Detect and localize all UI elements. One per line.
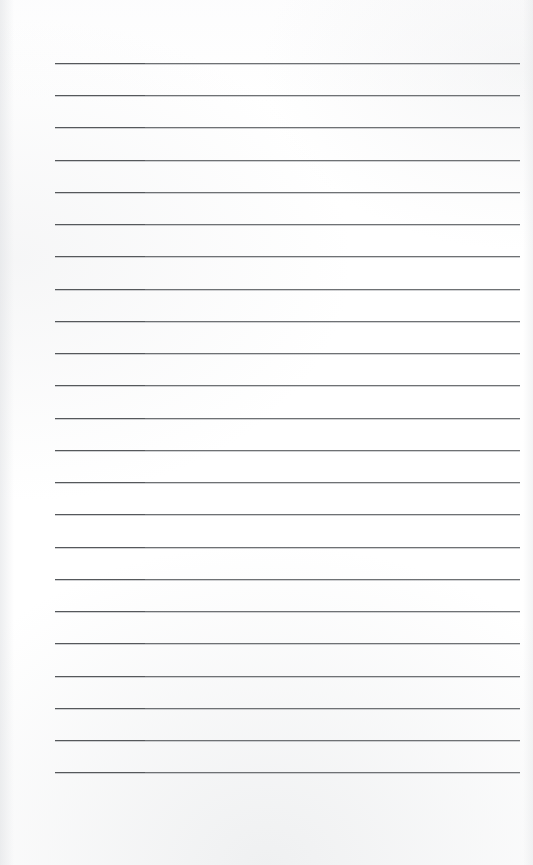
rule-line <box>55 127 520 128</box>
rule-line-shadow <box>55 128 520 129</box>
rule-line-shadow <box>55 290 520 291</box>
rule-line-shadow <box>55 225 520 226</box>
rule-line-left-segment <box>55 547 145 548</box>
rule-line-left-segment <box>55 450 145 451</box>
rule-line-left-segment <box>55 482 145 483</box>
rule-line <box>55 63 520 64</box>
rule-line-left-segment <box>55 418 145 419</box>
rule-line-shadow <box>55 773 520 774</box>
rule-line <box>55 385 520 386</box>
rule-line-shadow <box>55 386 520 387</box>
rule-line <box>55 353 520 354</box>
rule-line-shadow <box>55 612 520 613</box>
rule-line-left-segment <box>55 160 145 161</box>
rule-line-left-segment <box>55 740 145 741</box>
rule-line-shadow <box>55 644 520 645</box>
rule-line <box>55 740 520 741</box>
rule-line <box>55 676 520 677</box>
rule-line-shadow <box>55 322 520 323</box>
rule-line <box>55 514 520 515</box>
rule-line <box>55 95 520 96</box>
rule-line-left-segment <box>55 353 145 354</box>
rule-line-shadow <box>55 96 520 97</box>
rule-line-left-segment <box>55 514 145 515</box>
rule-line-left-segment <box>55 95 145 96</box>
rule-line-shadow <box>55 741 520 742</box>
rule-line <box>55 643 520 644</box>
rule-line-left-segment <box>55 192 145 193</box>
rule-line <box>55 579 520 580</box>
rule-line-shadow <box>55 483 520 484</box>
rule-line-left-segment <box>55 289 145 290</box>
rule-line <box>55 450 520 451</box>
rule-line <box>55 772 520 773</box>
rule-line <box>55 482 520 483</box>
rule-line-left-segment <box>55 127 145 128</box>
page-edge-shadow-right <box>523 0 533 865</box>
rule-line <box>55 192 520 193</box>
rule-line-shadow <box>55 515 520 516</box>
rule-line-shadow <box>55 161 520 162</box>
scanned-page <box>0 0 533 865</box>
rule-line <box>55 708 520 709</box>
rule-line <box>55 418 520 419</box>
rule-line <box>55 224 520 225</box>
rule-line <box>55 611 520 612</box>
rule-line-left-segment <box>55 224 145 225</box>
rule-line-shadow <box>55 580 520 581</box>
rule-line-shadow <box>55 709 520 710</box>
rule-line-shadow <box>55 677 520 678</box>
rule-line-left-segment <box>55 676 145 677</box>
rule-line <box>55 321 520 322</box>
rule-line <box>55 160 520 161</box>
rule-line-shadow <box>55 354 520 355</box>
rule-line-shadow <box>55 193 520 194</box>
rule-line-left-segment <box>55 385 145 386</box>
rule-line-shadow <box>55 257 520 258</box>
rule-line-left-segment <box>55 772 145 773</box>
rule-line-left-segment <box>55 321 145 322</box>
rule-line-left-segment <box>55 256 145 257</box>
rule-line-shadow <box>55 451 520 452</box>
paper-texture <box>0 0 533 865</box>
rule-line-shadow <box>55 419 520 420</box>
rule-line <box>55 547 520 548</box>
rule-line <box>55 256 520 257</box>
rule-line-left-segment <box>55 579 145 580</box>
rule-line <box>55 289 520 290</box>
rule-line-left-segment <box>55 708 145 709</box>
page-edge-shadow-left <box>0 0 14 865</box>
rule-line-left-segment <box>55 611 145 612</box>
rule-line-left-segment <box>55 643 145 644</box>
rule-line-shadow <box>55 64 520 65</box>
rule-line-shadow <box>55 548 520 549</box>
rule-line-left-segment <box>55 63 145 64</box>
